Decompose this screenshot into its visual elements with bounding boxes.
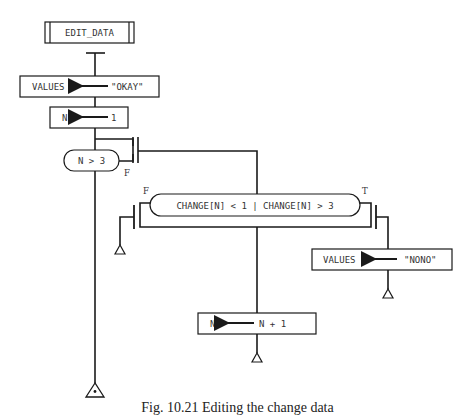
- assign-target: VALUES: [32, 82, 65, 92]
- decision-false-label: F: [143, 186, 149, 196]
- branch-end-icon: [383, 289, 393, 298]
- module-label: EDIT_DATA: [65, 28, 114, 38]
- assign-values-okay: VALUES "OKAY": [20, 76, 159, 97]
- loop-exit-label: F: [124, 168, 130, 178]
- module-box: EDIT_DATA: [45, 22, 134, 43]
- decision-true-label: T: [362, 186, 368, 196]
- assign-value: N + 1: [259, 319, 286, 329]
- loop-end-icon: [252, 353, 262, 362]
- decision-label: CHANGE[N] < 1 | CHANGE[N] > 3: [176, 201, 333, 211]
- assign-target: VALUES: [323, 255, 356, 265]
- decision: CHANGE[N] < 1 | CHANGE[N] > 3 F T: [140, 186, 371, 227]
- assign-value: 1: [111, 113, 116, 123]
- assign-value: "OKAY": [111, 82, 144, 92]
- branch-end-icon: [115, 245, 125, 254]
- assign-target: N: [62, 113, 67, 123]
- increment-n: N N + 1: [198, 313, 316, 334]
- assign-value: "NONO": [404, 255, 437, 265]
- end-terminal-icon: [86, 383, 104, 397]
- assign-target: N: [210, 319, 215, 329]
- figure-caption: Fig. 10.21 Editing the change data: [0, 400, 475, 416]
- assign-values-nono: VALUES "NONO": [312, 249, 452, 270]
- loop-condition: N > 3 F: [64, 150, 130, 178]
- loop-condition-label: N > 3: [78, 156, 105, 166]
- flowchart: EDIT_DATA VALUES "OKAY" N 1 N > 3 F: [0, 0, 475, 418]
- assign-n-init: N 1: [50, 107, 128, 128]
